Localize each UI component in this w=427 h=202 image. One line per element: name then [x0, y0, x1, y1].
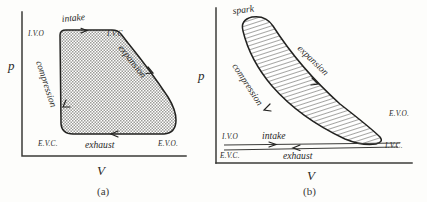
panel-b-label-intake: intake	[262, 130, 286, 141]
panel-a-label-ivo: I.V.O	[27, 29, 45, 38]
panel-b-label-exhaust: exhaust	[283, 150, 313, 161]
panel-a-caption: (a)	[97, 185, 110, 198]
panel-b-label-evo: E.V.O.	[388, 109, 409, 118]
panel-a-label-evc: E.V.C.	[37, 139, 58, 148]
panel-b: p V spark expansion compression E.V.O. I…	[197, 2, 412, 198]
panel-b-compression-arrow	[264, 104, 271, 111]
pv-indicator-diagram-figure: p V I.V.O intake I.V.C expansion compres…	[0, 0, 427, 202]
panel-b-label-ivc: I.V.C.	[384, 141, 403, 150]
panel-b-x-axis-label: V	[307, 168, 317, 183]
panel-a-x-axis-label: V	[97, 163, 107, 178]
panel-a-y-axis-label: p	[7, 58, 15, 73]
panel-b-caption: (b)	[303, 185, 316, 198]
panel-b-label-evc: E.V.C.	[219, 151, 240, 160]
panel-a: p V I.V.O intake I.V.C expansion compres…	[7, 11, 186, 198]
panel-a-label-evo: E.V.O.	[157, 139, 178, 148]
panel-a-label-compression: compression	[34, 59, 59, 108]
panel-b-loop	[235, 10, 390, 150]
panel-a-label-intake: intake	[61, 11, 86, 24]
panel-b-label-ivo: I.V.O	[221, 132, 239, 141]
panel-b-label-spark: spark	[232, 2, 255, 16]
panel-a-label-exhaust: exhaust	[85, 139, 115, 150]
panel-a-label-ivc: I.V.C	[106, 29, 123, 38]
panel-a-loop	[55, 25, 185, 143]
panel-b-y-axis-label: p	[197, 68, 205, 83]
